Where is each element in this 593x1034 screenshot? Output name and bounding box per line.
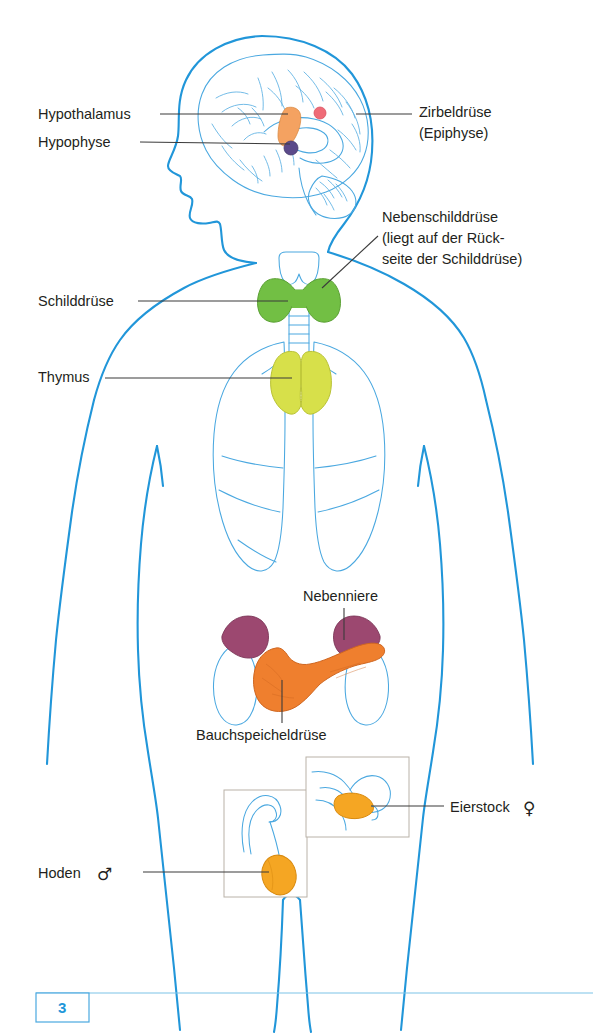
flank-right-outline [423,446,443,818]
armpit-right [418,446,424,486]
zirbeldruese-organ [314,107,326,119]
leg-inner-left [274,900,283,1032]
label-hypothalamus: Hypothalamus [38,106,131,122]
larynx-outline [279,252,319,284]
page-footer: 3 [36,993,593,1022]
leader-hypophyse [140,142,290,144]
torso-right-outline [328,252,486,400]
leg-right-outer [401,818,423,1030]
arm-left-outline [47,400,94,764]
testis-inset [224,790,307,899]
lung-right-fissure-2 [318,490,379,512]
ovary-inset [306,757,409,837]
label-hypophyse: Hypophyse [38,134,111,150]
thyroid-isthmus [292,290,306,308]
female-symbol-icon: ♀ [523,798,535,818]
corpus-callosum [264,118,343,164]
brain-stem [299,168,316,215]
label-nebenniere: Nebenniere [303,588,378,604]
label-eierstock: Eierstock [450,799,510,815]
leg-inner-right [300,900,311,1032]
torso-left-outline [94,263,256,400]
head-outline [168,36,262,263]
label-zirbeldruese-line2: (Epiphyse) [419,125,488,141]
cerebellum-outline [308,176,356,219]
hypothalamus-organ [278,107,301,146]
page-number: 3 [58,999,66,1016]
male-symbol-icon: ♂ [97,864,112,884]
thymus-organ [271,351,332,414]
label-hoden: Hoden [38,865,81,881]
arm-right-outline [486,400,533,764]
label-bauchspeicheldruese: Bauchspeicheldrüse [196,727,327,743]
label-nebenschilddruese-line2: (liegt auf der Rück- [382,230,505,246]
lung-left-lobe-edge [238,540,276,562]
label-thymus: Thymus [38,369,90,385]
lung-left-fissure-2 [219,490,280,512]
leg-left-outer [158,818,180,1030]
lung-right-fissure-1 [315,456,376,468]
label-nebenschilddruese-line3: seite der Schilddrüse) [382,251,522,267]
trachea-rings [289,316,309,343]
flank-left-outline [138,446,158,818]
endocrine-system-diagram: Hypothalamus Hypophyse Zirbeldrüse (Epip… [0,0,593,1034]
label-schilddruese: Schilddrüse [38,293,114,309]
hypophyse-organ [284,141,298,155]
label-nebenschilddruese-line1: Nebenschilddrüse [382,209,498,225]
label-zirbeldruese-line1: Zirbeldrüse [419,104,492,120]
armpit-left [157,446,163,486]
lung-left-fissure-1 [222,456,283,468]
